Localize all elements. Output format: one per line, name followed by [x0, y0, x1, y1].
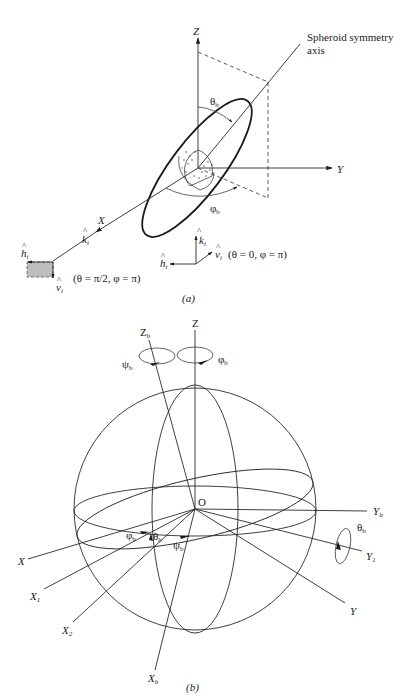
phi-b-angle-label: φb	[126, 529, 136, 543]
y1-axis	[195, 509, 362, 551]
x1-axis-label: X1	[29, 590, 40, 604]
theta-b-label-a: θb	[210, 95, 219, 109]
vertical-incidence-condition: (θ = 0, φ = π)	[228, 248, 287, 261]
y-axis-label-b: Y	[350, 605, 358, 617]
xb-axis	[155, 509, 195, 670]
origin-label: O	[198, 496, 206, 508]
symmetry-axis-label-line1: Spheroid symmetry	[307, 31, 394, 43]
z-axis-label-a: Z	[193, 25, 200, 37]
psi-b-angle-arrow	[180, 536, 190, 539]
panel-b: Z Zb ψb φb O Yb Y1 θb Y X X1 X	[17, 317, 383, 694]
zb-axis-label: Zb	[140, 326, 151, 340]
spheroid-orientation-figure: Z Y X Spheroid symmetry axis	[0, 0, 408, 699]
y1-axis-label: Y1	[366, 550, 376, 564]
symmetry-axis-label-line2: axis	[307, 44, 325, 56]
yb-axis	[195, 509, 367, 511]
v-hat-caret: ^	[57, 275, 62, 285]
x-axis-label-b: X	[17, 555, 26, 567]
x-axis-label-a: X	[97, 214, 106, 226]
k-hat-label-vertical: ki	[199, 234, 206, 248]
psi-b-angle-label: ψb	[173, 539, 184, 553]
dashed-projection-bottom	[198, 168, 268, 198]
x2-axis-label: X2	[61, 624, 73, 638]
phi-b-label-a: φb	[210, 202, 220, 216]
psi-b-rotation-loop	[139, 348, 175, 364]
y-axis-label-a: Y	[337, 163, 345, 175]
k-hat-caret: ^	[83, 226, 88, 236]
phi-b-label-top: φb	[218, 353, 228, 367]
panel-a-caption: (a)	[182, 292, 195, 305]
theta-b-arc-a	[198, 107, 232, 122]
y-axis-b	[195, 509, 345, 603]
psi-b-label-top: ψb	[122, 358, 133, 372]
theta-b-angle-label: θb	[153, 530, 162, 544]
horizontal-incidence-condition: (θ = π/2, φ = π)	[73, 272, 141, 285]
polarization-plane-box	[27, 262, 53, 277]
x-axis-a-extension	[53, 232, 96, 261]
phi-b-arc-a	[166, 187, 237, 196]
xb-axis-label: Xb	[147, 672, 159, 686]
spheroid-cross-section	[179, 150, 214, 190]
panel-b-caption: (b)	[186, 681, 199, 694]
theta-b-label-right: θb	[357, 521, 366, 535]
x2-axis	[73, 509, 195, 622]
dashed-projection-top	[198, 52, 268, 82]
panel-a: Z Y X Spheroid symmetry axis	[21, 25, 394, 305]
v-hat-caret-vertical: ^	[216, 242, 221, 252]
yb-axis-label: Yb	[373, 505, 383, 519]
v-hat-vector-vertical	[196, 252, 212, 264]
z-axis-label-b: Z	[192, 317, 199, 329]
x-axis-b	[28, 509, 195, 559]
